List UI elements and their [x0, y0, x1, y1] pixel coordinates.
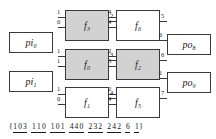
pin-label-output: 7	[161, 90, 164, 97]
genotype-group: 6	[125, 122, 130, 133]
pin-label-input: 1	[57, 48, 60, 55]
genotype-string: {10311010144023224261}	[9, 122, 209, 131]
function-node-f1: f1	[65, 87, 109, 118]
genotype-group: 232	[88, 122, 103, 133]
output-stub	[160, 98, 167, 99]
input-stub	[58, 66, 65, 67]
node-label: po9	[183, 78, 196, 88]
node-label: f3	[84, 21, 90, 31]
program-output-node-po9: po9	[167, 72, 211, 93]
node-label: pi1	[26, 77, 37, 87]
node-label: po8	[183, 40, 196, 50]
output-stub	[160, 60, 167, 61]
genotype-group: 242	[107, 122, 122, 133]
pin-label-input: 2	[108, 48, 111, 55]
pin-label-input: 3	[108, 58, 111, 65]
function-node-f6: f6	[116, 10, 160, 41]
pin-label-input: 1	[57, 86, 60, 93]
genotype-group: 110	[31, 122, 46, 133]
node-label: f0	[84, 60, 90, 70]
pin-label-input: 6	[159, 32, 162, 39]
genotype-group: 103	[13, 122, 28, 133]
pin-label-input: 0	[57, 19, 60, 26]
node-label: pi0	[26, 38, 37, 48]
input-stub	[160, 78, 167, 79]
function-node-f5: f5	[116, 87, 160, 118]
function-node-f2: f2	[116, 49, 160, 80]
output-stub	[160, 21, 167, 22]
function-node-f0: f0	[65, 49, 109, 80]
pin-label-input: 4	[108, 96, 111, 103]
program-output-node-po8: po8	[167, 34, 211, 55]
node-label: f2	[135, 60, 141, 70]
pin-label-input: 0	[57, 96, 60, 103]
function-node-f3: f3	[65, 10, 109, 41]
input-stub	[58, 27, 65, 28]
node-label: f5	[135, 98, 141, 108]
input-stub	[109, 27, 116, 28]
node-label: f1	[84, 98, 90, 108]
program-input-node-pi1: pi1	[9, 71, 53, 92]
pin-label-output: 5	[161, 13, 164, 20]
genotype-group: 101	[50, 122, 65, 133]
input-stub	[109, 66, 116, 67]
input-stub	[160, 40, 167, 41]
pin-label-input: 1	[159, 70, 162, 77]
input-stub	[109, 104, 116, 105]
genotype-group: 440	[69, 122, 84, 133]
pin-label-input: 4	[108, 19, 111, 26]
node-label: f6	[135, 21, 141, 31]
pin-label-input: 4	[108, 9, 111, 16]
input-stub	[58, 104, 65, 105]
pin-label-input: 1	[57, 9, 60, 16]
pin-label-input: 1	[57, 58, 60, 65]
diagram-canvas: pi0 pi1 f3 1 0 2 f0 1 1 3 f1 1 0 4 f6 4 …	[0, 0, 216, 139]
program-input-node-pi0: pi0	[9, 32, 53, 53]
pin-label-output: 6	[161, 52, 164, 59]
pin-label-input: 2	[108, 86, 111, 93]
genotype-close-brace: }	[139, 122, 143, 131]
